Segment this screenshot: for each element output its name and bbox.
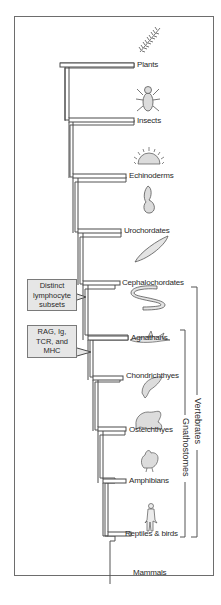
lamprey-icon <box>131 286 165 310</box>
callout-line: lymphocyte <box>28 291 76 301</box>
taxon-label-amphibians: Amphibians <box>129 476 169 486</box>
taxon-label-reptiles-birds: Reptiles & birds <box>125 529 178 539</box>
taxon-label-osteichthyes: Osteichthyes <box>129 425 173 435</box>
human-icon <box>145 504 157 532</box>
bracket-label-vertebrates: Vertebrates <box>193 398 203 444</box>
callout-lymphocyte-subsets: Distinct lymphocyte subsets <box>27 279 77 311</box>
taxon-label-agnathans: Agnathans <box>131 333 167 343</box>
callout-line: TCR, and <box>28 337 76 347</box>
taxon-label-plants: Plants <box>137 60 158 70</box>
callout-line: Distinct <box>28 281 76 291</box>
bracket-label-gnathostomes: Gnathostomes <box>181 418 191 477</box>
sea-squirt-icon <box>144 186 154 213</box>
taxon-label-urochordates: Urochordates <box>124 226 170 236</box>
callout-line: subsets <box>28 300 76 310</box>
chicken-icon <box>141 451 158 472</box>
taxon-label-echinoderms: Echinoderms <box>129 171 174 181</box>
callout-line: MHC <box>28 346 76 356</box>
fly-icon <box>136 87 160 112</box>
lancelet-icon <box>135 236 168 262</box>
taxon-label-chondrichthyes: Chondrichthyes <box>126 371 179 381</box>
taxon-label-cephalochordates: Cephalochordates <box>122 278 184 288</box>
callout-rag-ig-tcr-mhc: RAG, Ig, TCR, and MHC <box>27 325 77 358</box>
callout-line: RAG, Ig, <box>28 327 76 337</box>
fern-icon <box>139 27 160 52</box>
taxon-label-mammals: Mammals <box>133 568 166 578</box>
sea-urchin-icon <box>134 147 164 164</box>
taxon-label-insects: Insects <box>137 116 161 126</box>
